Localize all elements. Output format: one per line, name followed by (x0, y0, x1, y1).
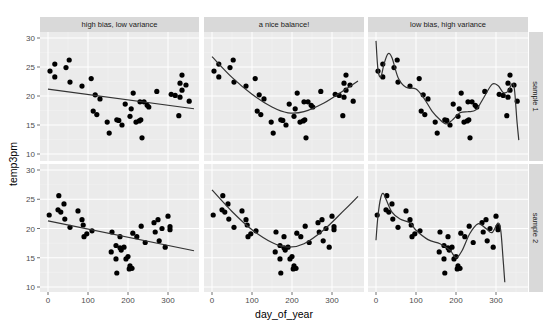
column-strip: high bias, low variance (40, 17, 199, 32)
data-point (81, 222, 86, 227)
data-point (52, 74, 57, 79)
x-tick-label: 0 (374, 296, 379, 305)
data-point (167, 227, 172, 232)
data-point (375, 212, 380, 217)
data-point (226, 217, 231, 222)
y-tick-label: 15 (26, 121, 35, 130)
y-tick-label: 30 (26, 166, 35, 175)
x-tick-label: 300 (325, 296, 339, 305)
data-point (52, 62, 57, 67)
data-point (179, 88, 184, 93)
data-point (222, 210, 227, 215)
data-point (457, 106, 462, 111)
row-facet-strips: sample 1sample 2 (529, 32, 543, 292)
data-point (79, 84, 84, 89)
data-point (253, 76, 258, 81)
data-point (291, 266, 296, 271)
data-point (321, 238, 326, 243)
data-point (123, 102, 128, 107)
data-point (216, 74, 221, 79)
data-point (173, 93, 178, 98)
data-point (505, 81, 510, 86)
data-point (433, 120, 438, 125)
data-point (327, 245, 332, 250)
y-axis-title: temp3pm (7, 142, 19, 186)
y-tick-label: 15 (26, 254, 35, 263)
data-point (138, 117, 143, 122)
data-point (97, 96, 102, 101)
data-point (445, 234, 450, 239)
data-point (105, 120, 110, 125)
data-point (67, 80, 72, 85)
y-tick-label: 10 (26, 283, 35, 292)
data-point (183, 82, 188, 87)
data-point (280, 118, 285, 123)
data-point (302, 117, 307, 122)
y-tick-label: 20 (26, 92, 35, 101)
column-facet-strips: high bias, low variancea nice balance!lo… (40, 17, 528, 32)
data-point (63, 65, 68, 70)
data-point (56, 193, 61, 198)
data-point (159, 226, 164, 231)
data-point (58, 210, 63, 215)
data-point (258, 112, 263, 117)
data-point (176, 113, 181, 118)
data-point (455, 266, 460, 271)
data-point (289, 254, 294, 259)
data-point (403, 208, 408, 213)
data-point (127, 266, 132, 271)
data-point (459, 91, 464, 96)
data-point (351, 99, 356, 104)
data-point (471, 240, 476, 245)
data-point (504, 113, 509, 118)
column-strip-label: a nice balance! (259, 20, 309, 29)
x-tick-label: 300 (161, 296, 175, 305)
data-point (395, 57, 400, 62)
data-point (462, 234, 467, 239)
x-tick-label: 100 (245, 296, 259, 305)
data-point (211, 212, 216, 217)
data-point (303, 135, 308, 140)
data-point (157, 238, 162, 243)
data-point (89, 76, 94, 81)
data-point (442, 270, 447, 275)
facet-panel (368, 164, 528, 292)
data-point (417, 76, 422, 81)
data-point (231, 57, 236, 62)
data-point (231, 225, 236, 230)
data-point (341, 81, 346, 86)
data-point (269, 120, 274, 125)
data-point (248, 231, 253, 236)
data-point (187, 99, 192, 104)
data-point (75, 208, 80, 213)
data-point (295, 91, 300, 96)
data-point (319, 217, 324, 222)
y-tick-label: 20 (26, 225, 35, 234)
data-point (84, 231, 89, 236)
data-point (129, 106, 134, 111)
data-point (139, 135, 144, 140)
data-point (278, 270, 283, 275)
data-point (481, 229, 486, 234)
y-tick-label: 25 (26, 63, 35, 72)
data-point (94, 112, 99, 117)
data-point (485, 238, 490, 243)
data-point (257, 92, 262, 97)
y-tick-label: 10 (26, 150, 35, 159)
data-point (113, 256, 118, 261)
data-point (177, 81, 182, 86)
data-point (298, 234, 303, 239)
y-axes: 10152025301015202530 (26, 34, 40, 292)
data-point (341, 95, 346, 100)
data-point (67, 57, 72, 62)
data-point (293, 106, 298, 111)
x-tick-label: 200 (121, 296, 135, 305)
facet-panel (204, 164, 364, 292)
data-point (179, 73, 184, 78)
row-strip-label: sample 1 (531, 81, 540, 111)
facet-panel (204, 32, 364, 161)
data-point (131, 91, 136, 96)
data-point (119, 248, 124, 253)
data-point (119, 122, 124, 127)
data-point (146, 104, 151, 109)
